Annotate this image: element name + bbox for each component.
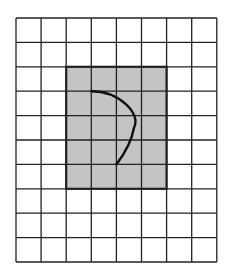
grid-diagram (0, 0, 226, 271)
